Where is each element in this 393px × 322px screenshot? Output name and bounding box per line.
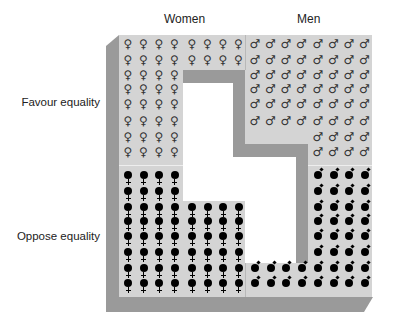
male-filled-symbol-icon bbox=[345, 217, 353, 225]
male-symbol-icon: ♂ bbox=[248, 37, 262, 51]
female-filled-symbol-icon bbox=[219, 279, 227, 287]
symbol-tail-icon bbox=[159, 225, 160, 231]
female-symbol-icon: ♀ bbox=[152, 37, 166, 51]
male-symbol-icon: ♂ bbox=[295, 97, 309, 111]
female-symbol-icon: ♀ bbox=[121, 37, 135, 51]
female-symbol-icon: ♀ bbox=[152, 53, 166, 67]
female-filled-symbol-icon bbox=[140, 232, 148, 240]
symbol-tail-icon bbox=[223, 240, 224, 246]
symbol-tail-icon bbox=[128, 225, 129, 231]
male-symbol-icon: ♂ bbox=[248, 97, 262, 111]
male-symbol-icon: ♂ bbox=[358, 130, 372, 144]
male-symbol-icon: ♂ bbox=[358, 145, 372, 159]
symbol-tail-icon bbox=[238, 287, 239, 293]
female-filled-symbol-icon bbox=[124, 203, 132, 211]
male-filled-symbol-icon bbox=[345, 279, 353, 287]
male-filled-symbol-icon bbox=[314, 203, 322, 211]
panel-shadow-corner-bottom bbox=[364, 297, 373, 312]
divider-women-men-lower bbox=[245, 263, 246, 297]
female-filled-symbol-icon bbox=[155, 232, 163, 240]
female-filled-symbol-icon bbox=[140, 203, 148, 211]
male-filled-symbol-icon bbox=[345, 187, 353, 195]
female-symbol-icon: ♀ bbox=[121, 145, 135, 159]
symbol-tail-icon bbox=[192, 256, 193, 262]
symbol-tail-icon bbox=[238, 272, 239, 278]
female-filled-symbol-icon bbox=[204, 264, 212, 272]
column-label-men: Men bbox=[297, 12, 320, 26]
female-filled-symbol-icon bbox=[188, 217, 196, 225]
symbol-tail-icon bbox=[159, 256, 160, 262]
female-filled-symbol-icon bbox=[124, 187, 132, 195]
male-filled-symbol-icon bbox=[330, 264, 338, 272]
symbol-tail-icon bbox=[207, 287, 208, 293]
female-filled-symbol-icon bbox=[188, 248, 196, 256]
female-filled-symbol-icon bbox=[171, 171, 179, 179]
female-symbol-icon: ♀ bbox=[121, 53, 135, 67]
female-symbol-icon: ♀ bbox=[201, 53, 215, 67]
female-filled-symbol-icon bbox=[171, 203, 179, 211]
female-filled-symbol-icon bbox=[171, 264, 179, 272]
male-filled-symbol-icon bbox=[361, 203, 369, 211]
female-filled-symbol-icon bbox=[235, 248, 243, 256]
male-symbol-icon: ♂ bbox=[279, 97, 293, 111]
female-filled-symbol-icon bbox=[155, 187, 163, 195]
symbol-tail-icon bbox=[192, 240, 193, 246]
female-symbol-icon: ♀ bbox=[232, 53, 246, 67]
male-symbol-icon: ♂ bbox=[342, 97, 356, 111]
female-filled-symbol-icon bbox=[235, 203, 243, 211]
male-symbol-icon: ♂ bbox=[295, 37, 309, 51]
male-symbol-icon: ♂ bbox=[248, 82, 262, 96]
male-filled-symbol-icon bbox=[345, 264, 353, 272]
male-filled-symbol-icon bbox=[330, 187, 338, 195]
female-symbol-icon: ♀ bbox=[152, 130, 166, 144]
male-symbol-icon: ♂ bbox=[327, 145, 341, 159]
female-filled-symbol-icon bbox=[219, 203, 227, 211]
female-symbol-icon: ♀ bbox=[121, 97, 135, 111]
female-filled-symbol-icon bbox=[171, 279, 179, 287]
panel-shadow-corner-top bbox=[106, 35, 119, 46]
male-filled-symbol-icon bbox=[361, 187, 369, 195]
symbol-tail-icon bbox=[143, 287, 144, 293]
female-symbol-icon: ♀ bbox=[168, 82, 182, 96]
female-symbol-icon: ♀ bbox=[168, 68, 182, 82]
female-symbol-icon: ♀ bbox=[137, 145, 151, 159]
female-filled-symbol-icon bbox=[235, 279, 243, 287]
symbol-tail-icon bbox=[192, 225, 193, 231]
symbol-tail-icon bbox=[192, 287, 193, 293]
symbol-tail-icon bbox=[174, 240, 175, 246]
male-filled-symbol-icon bbox=[267, 279, 275, 287]
male-filled-symbol-icon bbox=[330, 232, 338, 240]
female-filled-symbol-icon bbox=[204, 248, 212, 256]
female-filled-symbol-icon bbox=[235, 217, 243, 225]
female-filled-symbol-icon bbox=[188, 232, 196, 240]
male-filled-symbol-icon bbox=[361, 279, 369, 287]
female-symbol-icon: ♀ bbox=[121, 130, 135, 144]
female-symbol-icon: ♀ bbox=[152, 82, 166, 96]
symbol-tail-icon bbox=[223, 256, 224, 262]
male-symbol-icon: ♂ bbox=[342, 130, 356, 144]
male-symbol-icon: ♂ bbox=[264, 114, 278, 128]
male-filled-symbol-icon bbox=[361, 217, 369, 225]
female-filled-symbol-icon bbox=[171, 217, 179, 225]
male-filled-symbol-icon bbox=[361, 248, 369, 256]
female-filled-symbol-icon bbox=[204, 217, 212, 225]
column-label-women: Women bbox=[164, 12, 205, 26]
symbol-tail-icon bbox=[128, 272, 129, 278]
male-symbol-icon: ♂ bbox=[311, 82, 325, 96]
symbol-tail-icon bbox=[174, 256, 175, 262]
symbol-tail-icon bbox=[143, 240, 144, 246]
female-filled-symbol-icon bbox=[155, 248, 163, 256]
female-symbol-icon: ♀ bbox=[121, 68, 135, 82]
male-symbol-icon: ♂ bbox=[264, 97, 278, 111]
male-symbol-icon: ♂ bbox=[248, 68, 262, 82]
male-filled-symbol-icon bbox=[345, 171, 353, 179]
male-filled-symbol-icon bbox=[298, 279, 306, 287]
male-filled-symbol-icon bbox=[330, 279, 338, 287]
male-symbol-icon: ♂ bbox=[358, 114, 372, 128]
female-symbol-icon: ♀ bbox=[168, 130, 182, 144]
female-symbol-icon: ♀ bbox=[216, 53, 230, 67]
female-filled-symbol-icon bbox=[235, 264, 243, 272]
female-symbol-icon: ♀ bbox=[232, 37, 246, 51]
symbol-tail-icon bbox=[207, 240, 208, 246]
female-filled-symbol-icon bbox=[155, 217, 163, 225]
